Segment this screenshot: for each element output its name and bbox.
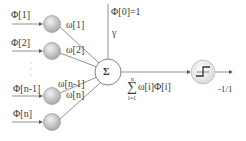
sum-sigma: ∑ <box>127 80 137 94</box>
input-label-n-1: Φ[n-1] <box>13 84 40 94</box>
sum-lower-limit: i=1 <box>128 95 136 101</box>
weight-line-2 <box>60 53 97 67</box>
weight-label-1: ω[1] <box>66 20 84 30</box>
weight-label-n: ω[n] <box>66 90 84 100</box>
input-label-n: Φ[n] <box>13 109 32 119</box>
input-node-n <box>44 114 61 131</box>
activation-output-label: -1/1 <box>218 84 233 94</box>
ellipsis-dots <box>30 62 31 75</box>
bias-weight-label: γ <box>112 28 116 38</box>
input-label-1: Φ[1] <box>11 10 30 20</box>
weight-label-n-1: ω[n-1] <box>58 79 85 89</box>
input-node-1 <box>44 16 61 33</box>
bias-label: Φ[0]=1 <box>111 7 141 17</box>
weight-label-2: ω[2] <box>66 45 84 55</box>
input-node-2 <box>44 43 61 60</box>
input-node-n-1 <box>44 88 61 105</box>
summation-symbol: Σ <box>103 67 110 77</box>
perceptron-diagram <box>0 0 246 141</box>
sum-expression-body: ω[i]Φ[i] <box>138 82 171 92</box>
input-label-2: Φ[2] <box>11 38 30 48</box>
